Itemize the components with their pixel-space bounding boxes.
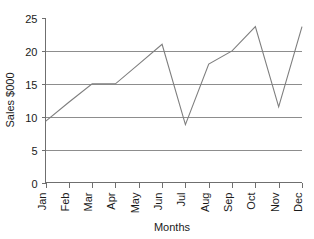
line-chart: 0510152025 JanFebMarAprMayJunJulAugSepOc… (0, 0, 314, 239)
x-axis-title: Months (154, 221, 191, 233)
x-tick-label-apr: Apr (105, 192, 117, 209)
x-tick-label-nov: Nov (269, 192, 281, 212)
chart-canvas: 0510152025 JanFebMarAprMayJunJulAugSepOc… (0, 0, 314, 239)
x-tick-label-jun: Jun (152, 193, 164, 211)
y-tick-label-10: 10 (25, 112, 37, 124)
x-tick-label-jul: Jul (175, 193, 187, 207)
x-tick-label-oct: Oct (245, 193, 257, 210)
x-tick-label-aug: Aug (199, 193, 211, 213)
y-tick-label-25: 25 (25, 13, 37, 25)
y-tick-label-15: 15 (25, 79, 37, 91)
x-tick-label-feb: Feb (59, 193, 71, 212)
y-tick-label-5: 5 (31, 145, 37, 157)
x-tick-label-jan: Jan (36, 193, 48, 211)
y-tick-label-20: 20 (25, 46, 37, 58)
y-axis-title: Sales $000 (4, 72, 16, 127)
x-tick-label-sep: Sep (222, 193, 234, 213)
y-tick-label-0: 0 (31, 178, 37, 190)
x-tick-label-may: May (129, 192, 141, 213)
x-tick-label-mar: Mar (82, 192, 94, 211)
x-tick-label-dec: Dec (292, 192, 304, 212)
